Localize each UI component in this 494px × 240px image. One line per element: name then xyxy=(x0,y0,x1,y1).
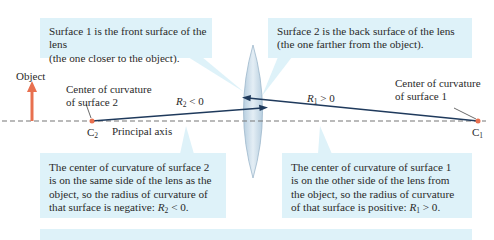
c2-point-label: C2 xyxy=(87,126,98,139)
bottom-callout-strip xyxy=(40,229,472,240)
c2-sub: 2 xyxy=(94,131,98,140)
callout-tail-c2 xyxy=(180,126,194,154)
c1-title-line1: Center of curvature xyxy=(395,77,481,90)
c1-note-line1: The center of curvature of surface 1 xyxy=(291,161,472,174)
c2-note-line4: that surface is negative: R2 < 0. xyxy=(49,201,226,214)
c2-note-line4-text: that surface is negative: xyxy=(49,201,158,213)
c2-title-line1: Center of curvature xyxy=(66,83,152,96)
c2-note-line2: is on the same side of the lens as the xyxy=(49,174,226,187)
radius-r2-line xyxy=(92,108,262,121)
object-arrowhead-icon xyxy=(27,81,37,92)
callout-surface2-line1: Surface 2 is the back surface of the len… xyxy=(277,25,472,38)
c2-title: Center of curvature of surface 2 xyxy=(66,83,152,108)
c1-note-line3: the object, so the radius of curvature xyxy=(291,188,472,201)
c1-cond-rel: > 0. xyxy=(420,201,440,213)
callout-surface1-line1: Surface 1 is the front surface of the le… xyxy=(49,25,212,52)
c2-cond-rel: < 0. xyxy=(168,201,188,213)
callout-c2-explanation: The center of curvature of surface 2 is … xyxy=(40,153,226,218)
c1-leader-line xyxy=(454,108,476,119)
c1-point-label: C1 xyxy=(472,126,483,139)
callout-surface1-line2: (the one closer to the object). xyxy=(49,52,212,65)
principal-axis-label: Principal axis xyxy=(112,125,172,138)
callout-tail-surface2 xyxy=(262,57,292,96)
callout-c1-explanation: The center of curvature of surface 1 is … xyxy=(282,153,472,218)
callout-surface1: Surface 1 is the front surface of the le… xyxy=(40,18,212,58)
c2-note-line3: object, so the radius of curvature of xyxy=(49,188,226,201)
c1-sub: 1 xyxy=(479,131,483,140)
r1-symbol: R xyxy=(307,92,314,104)
callout-surface2: Surface 2 is the back surface of the len… xyxy=(268,18,472,58)
r2-symbol: R xyxy=(176,95,183,107)
c2-note-line1: The center of curvature of surface 2 xyxy=(49,161,226,174)
c2-cond-symbol: R xyxy=(158,201,165,213)
c1-title-line2: of surface 1 xyxy=(395,90,481,103)
c1-note-line4: of that surface is positive: R1 > 0. xyxy=(291,201,472,214)
object-label: Object xyxy=(16,70,45,83)
c1-title: Center of curvature of surface 1 xyxy=(395,77,481,102)
r1-relation: > 0 xyxy=(317,92,334,104)
r2-label: R2 < 0 xyxy=(176,95,204,108)
c2-point-marker xyxy=(90,119,95,124)
callout-tail-c1 xyxy=(318,126,332,154)
c1-note-line4-text: of that surface is positive: xyxy=(291,201,409,213)
r1-label: R1 > 0 xyxy=(307,92,335,105)
c2-title-line2: of surface 2 xyxy=(66,96,152,109)
c1-note-line2: is on the other side of the lens from xyxy=(291,174,472,187)
r2-arrowhead-icon xyxy=(259,105,268,111)
lens-shape xyxy=(244,45,263,178)
r2-relation: < 0 xyxy=(186,95,203,107)
callout-surface2-line2: (the one farther from the object). xyxy=(277,38,472,51)
c1-point-marker xyxy=(476,119,481,124)
